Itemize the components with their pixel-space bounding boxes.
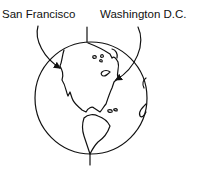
- greenland-coast: [112, 49, 117, 58]
- great-lakes: [101, 71, 110, 77]
- globe-outline: [35, 42, 147, 154]
- arctic-islands-2: [101, 55, 104, 58]
- arctic-islands-3: [100, 60, 103, 62]
- continent-south-america: [83, 115, 111, 154]
- arrow-washington-dc: [116, 27, 141, 80]
- globe-diagram: [0, 0, 198, 172]
- continent-north-america: [60, 43, 119, 112]
- arctic-islands: [93, 56, 97, 59]
- caribbean-islands: [108, 110, 112, 113]
- caribbean-islands-2: [114, 109, 118, 111]
